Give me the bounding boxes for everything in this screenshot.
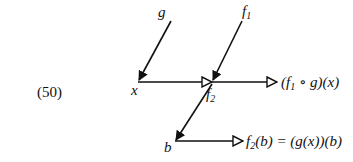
equation-number: (50) bbox=[37, 84, 62, 101]
output-application: f2(b) = (g(x))(b) bbox=[246, 133, 342, 151]
output-composition: (f1 ∘ g)(x) bbox=[281, 74, 339, 92]
node-x: x bbox=[130, 82, 138, 98]
node-f1: f1 bbox=[242, 3, 251, 21]
node-b: b bbox=[164, 139, 172, 155]
node-f2: f2 bbox=[206, 86, 215, 104]
edge-f1-to-f2 bbox=[213, 21, 242, 80]
edge-g-to-x bbox=[139, 21, 171, 80]
node-g: g bbox=[158, 4, 166, 20]
diagram-canvas: (50) g f1 x f2 b (f1 ∘ g)(x) f2(b) = (g(… bbox=[0, 0, 353, 162]
